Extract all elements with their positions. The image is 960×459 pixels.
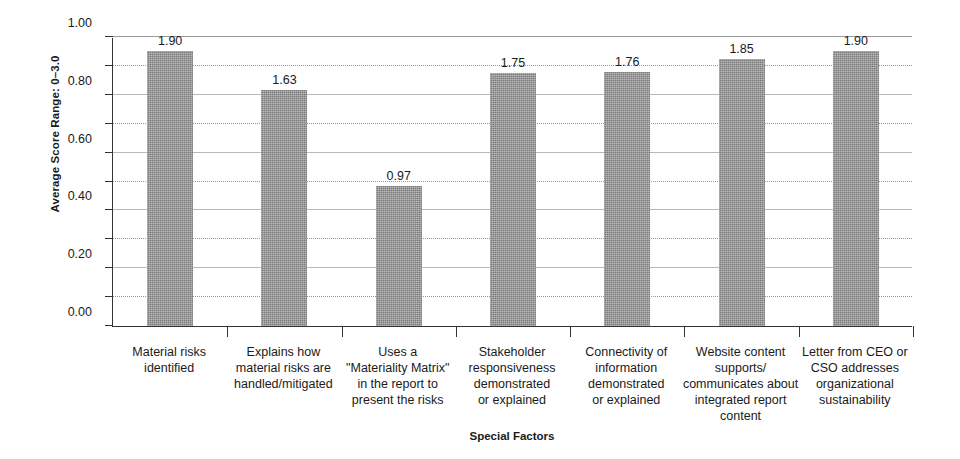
category-label-line: integrated report bbox=[675, 392, 805, 408]
category-label-line: Explains how bbox=[218, 344, 348, 360]
x-axis-tick bbox=[227, 326, 228, 337]
category-label-line: responsiveness bbox=[447, 360, 577, 376]
category-label-line: or explained bbox=[447, 392, 577, 408]
y-axis-tick: 0.80 bbox=[105, 209, 113, 210]
bar-slot: 1.63 bbox=[227, 38, 341, 326]
x-axis-category-label: Website contentsupports/communicates abo… bbox=[675, 344, 805, 424]
bar-value-label: 1.85 bbox=[729, 42, 753, 56]
category-label-line: Connectivity of bbox=[561, 344, 691, 360]
x-axis-category-label: Letter from CEO orCSO addressesorganizat… bbox=[790, 344, 920, 408]
y-axis-tick-label: 1.00 bbox=[68, 16, 92, 30]
x-axis-tick bbox=[684, 326, 685, 337]
category-label-line: information bbox=[561, 360, 691, 376]
bar[interactable] bbox=[261, 90, 307, 326]
category-label-line: organizational bbox=[790, 376, 920, 392]
bar[interactable] bbox=[490, 73, 536, 326]
bar-chart: Average Score Range: 0–3.0 0.000.200.400… bbox=[0, 0, 960, 459]
gridline bbox=[113, 36, 912, 37]
x-axis-tick bbox=[570, 326, 571, 337]
x-axis-category-label: Stakeholderresponsivenessdemonstratedor … bbox=[447, 344, 577, 408]
y-axis-tick-label: 0.80 bbox=[68, 74, 92, 88]
category-label-line: Letter from CEO or bbox=[790, 344, 920, 360]
category-label-line: supports/ bbox=[675, 360, 805, 376]
bar-value-label: 1.90 bbox=[844, 34, 868, 48]
x-axis-tick bbox=[456, 326, 457, 337]
category-label-line: present the risks bbox=[333, 392, 463, 408]
category-label-line: material risks are bbox=[218, 360, 348, 376]
bar-value-label: 1.76 bbox=[615, 55, 639, 69]
category-label-line: CSO addresses bbox=[790, 360, 920, 376]
category-label-line: Stakeholder bbox=[447, 344, 577, 360]
x-axis-tick bbox=[913, 326, 914, 337]
y-axis-tick: 1.00 bbox=[105, 181, 113, 182]
category-label-line: content bbox=[675, 408, 805, 424]
bar-slot: 1.90 bbox=[799, 38, 913, 326]
category-label-line: Material risks bbox=[104, 344, 234, 360]
x-axis-category-label: Connectivity ofinformationdemonstratedor… bbox=[561, 344, 691, 408]
category-label-line: in the report to bbox=[333, 376, 463, 392]
bar-value-label: 1.90 bbox=[158, 34, 182, 48]
x-axis-category-labels: Material risksidentifiedExplains howmate… bbox=[112, 344, 912, 434]
y-axis-title: Average Score Range: 0–3.0 bbox=[49, 19, 61, 249]
category-label-line: Website content bbox=[675, 344, 805, 360]
category-label-line: or explained bbox=[561, 392, 691, 408]
y-axis-tick: 0.00 bbox=[105, 325, 113, 326]
category-label-line: demonstrated bbox=[447, 376, 577, 392]
y-axis-tick-label: 0.00 bbox=[68, 305, 92, 319]
y-axis-tick-label: 0.40 bbox=[68, 189, 92, 203]
x-axis-tick bbox=[342, 326, 343, 337]
y-axis-tick: 1.20 bbox=[105, 152, 113, 153]
category-label-line: communicates about bbox=[675, 376, 805, 392]
x-axis-category-label: Uses a"Materiality Matrix"in the report … bbox=[333, 344, 463, 408]
y-axis-tick: 1.40 bbox=[105, 123, 113, 124]
y-axis-tick: 0.40 bbox=[105, 267, 113, 268]
category-label-line: Uses a bbox=[333, 344, 463, 360]
y-axis-tick: 1.80 bbox=[105, 65, 113, 66]
bar-value-label: 1.75 bbox=[501, 56, 525, 70]
bar[interactable] bbox=[376, 186, 422, 326]
y-axis-tick: 0.60 bbox=[105, 238, 113, 239]
x-axis-category-label: Material risksidentified bbox=[104, 344, 234, 376]
bar-slot: 1.85 bbox=[684, 38, 798, 326]
y-axis-tick: 1.60 bbox=[105, 94, 113, 95]
bar-value-label: 1.63 bbox=[272, 73, 296, 87]
bar-value-label: 0.97 bbox=[387, 169, 411, 183]
plot-area: 0.000.200.400.600.801.001.201.401.601.80… bbox=[112, 38, 912, 327]
category-label-line: demonstrated bbox=[561, 376, 691, 392]
x-axis-tick bbox=[799, 326, 800, 337]
bars-layer: 1.901.630.971.751.761.851.90 bbox=[113, 38, 912, 326]
bar-slot: 1.76 bbox=[570, 38, 684, 326]
category-label-line: identified bbox=[104, 360, 234, 376]
bar[interactable] bbox=[604, 72, 650, 326]
bar[interactable] bbox=[147, 51, 193, 326]
bar-slot: 0.97 bbox=[342, 38, 456, 326]
x-axis-title: Special Factors bbox=[112, 430, 912, 442]
y-axis-tick-label: 0.60 bbox=[68, 132, 92, 146]
x-axis-category-label: Explains howmaterial risks arehandled/mi… bbox=[218, 344, 348, 392]
category-label-line: handled/mitigated bbox=[218, 376, 348, 392]
category-label-line: "Materiality Matrix" bbox=[333, 360, 463, 376]
bar-slot: 1.90 bbox=[113, 38, 227, 326]
y-axis-tick: 2.00 bbox=[105, 36, 113, 37]
bar-slot: 1.75 bbox=[456, 38, 570, 326]
bar[interactable] bbox=[719, 59, 765, 326]
bar[interactable] bbox=[833, 51, 879, 326]
category-label-line: sustainability bbox=[790, 392, 920, 408]
y-axis-tick-label: 0.20 bbox=[68, 247, 92, 261]
y-axis-tick: 0.20 bbox=[105, 296, 113, 297]
